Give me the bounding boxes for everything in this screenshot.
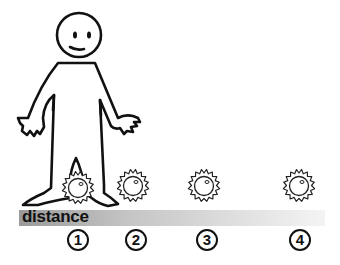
position-marker-1: 1 — [67, 229, 89, 251]
distance-label: distance — [22, 207, 89, 227]
germ-3 — [188, 170, 219, 202]
position-marker-2: 2 — [125, 229, 147, 251]
diagram-stage: distance 1 2 3 4 — [0, 0, 340, 265]
position-marker-3: 3 — [196, 229, 218, 251]
germ-2 — [117, 170, 148, 202]
position-marker-4: 4 — [289, 229, 311, 251]
germ-4 — [283, 170, 314, 202]
